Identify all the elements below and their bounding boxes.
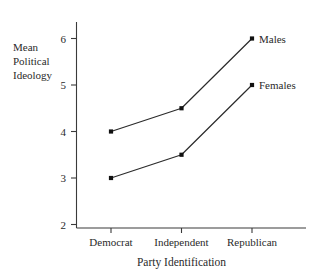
data-point-females-republican (250, 83, 254, 87)
y-tick-label-4: 4 (61, 126, 67, 138)
series-line-males (111, 39, 252, 132)
series-label-females: Females (259, 79, 296, 91)
x-tick-marks (111, 228, 252, 233)
y-axis-title-line-1: Mean (13, 41, 39, 53)
y-tick-marks (71, 39, 77, 225)
x-category-label-democrat: Democrat (89, 236, 132, 248)
y-axis-title-line-3: Ideology (13, 69, 53, 81)
line-chart: 6 5 4 3 2 Democrat Independent Republica… (0, 0, 315, 274)
data-point-males-independent (179, 106, 183, 110)
y-tick-label-6: 6 (61, 33, 67, 45)
x-axis-title: Party Identification (137, 256, 226, 269)
series-markers-males (109, 36, 254, 133)
y-axis-title-line-2: Political (13, 55, 50, 67)
chart-figure: 6 5 4 3 2 Democrat Independent Republica… (0, 0, 315, 274)
data-point-males-republican (250, 36, 254, 40)
y-tick-label-2: 2 (61, 219, 67, 231)
data-point-males-democrat (109, 129, 113, 133)
series-line-females (111, 85, 252, 178)
series-label-males: Males (259, 33, 286, 45)
series-markers-females (109, 83, 254, 180)
x-category-label-republican: Republican (227, 236, 278, 248)
y-tick-label-5: 5 (61, 79, 67, 91)
data-point-females-independent (179, 153, 183, 157)
y-tick-label-3: 3 (61, 172, 67, 184)
data-point-females-democrat (109, 176, 113, 180)
x-category-label-independent: Independent (154, 236, 208, 248)
